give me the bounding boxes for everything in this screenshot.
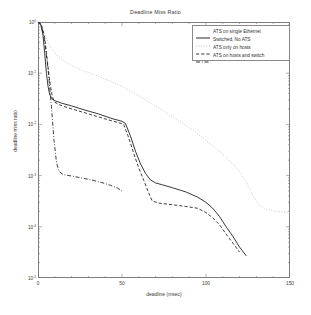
chart-title: Deadline Miss Ratio bbox=[0, 9, 311, 15]
x-tick-label: 50 bbox=[119, 281, 124, 286]
x-tick-label: 150 bbox=[286, 281, 294, 286]
legend-line-sample bbox=[195, 28, 211, 36]
legend-item: ATS only on hosts bbox=[195, 44, 287, 52]
y-axis-label: deadline miss ratio bbox=[12, 86, 18, 176]
y-tick-label: 100 bbox=[29, 19, 36, 26]
x-axis-label: deadline (msec) bbox=[38, 291, 290, 297]
legend: ATS on single EthernetSwitched, No ATSAT… bbox=[192, 25, 290, 61]
x-tick-label: 100 bbox=[202, 281, 210, 286]
legend-label: ATS on single Ethernet bbox=[213, 28, 261, 36]
y-tick-label: 10-4 bbox=[28, 224, 36, 231]
figure: Deadline Miss Ratio 10010-110-210-310-41… bbox=[0, 0, 311, 315]
legend-item: ATS on hosts and switch bbox=[195, 52, 287, 60]
x-tick-label: 0 bbox=[37, 281, 40, 286]
y-tick-label: 10-2 bbox=[28, 121, 36, 128]
legend-label: Switched, No ATS bbox=[213, 36, 250, 44]
legend-line-sample bbox=[195, 52, 211, 60]
legend-line-sample bbox=[195, 44, 211, 52]
y-tick-label: 10-1 bbox=[28, 70, 36, 77]
x-axis-ticks: 050100150 bbox=[0, 281, 311, 291]
legend-line-sample bbox=[195, 36, 211, 44]
legend-label: ATS on hosts and switch bbox=[213, 52, 264, 60]
legend-item: ATS on single Ethernet bbox=[195, 28, 287, 36]
y-tick-label: 10-3 bbox=[28, 172, 36, 179]
legend-label: ATS only on hosts bbox=[213, 44, 251, 52]
legend-item: Switched, No ATS bbox=[195, 36, 287, 44]
